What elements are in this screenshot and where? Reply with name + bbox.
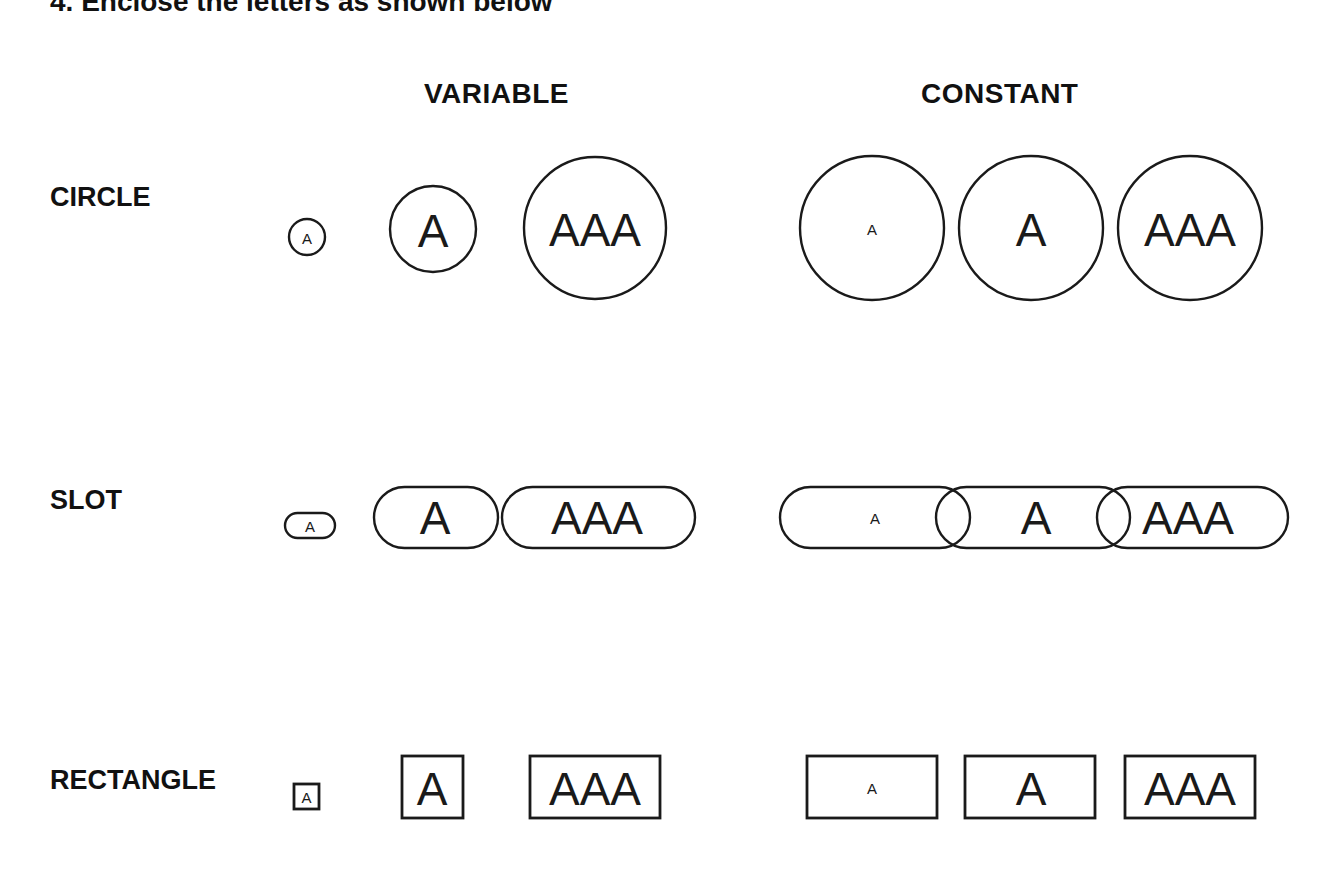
rectangle-variable-large-text: AAA [549, 763, 641, 815]
circle-variable-large: AAA [524, 157, 666, 299]
slot-variable-medium-text: A [420, 492, 451, 544]
rectangle-constant-large: AAA [1125, 756, 1255, 818]
slot-constant-small-text: A [870, 510, 880, 527]
rectangle-variable-small: A [294, 784, 319, 809]
rectangle-constant-large-text: AAA [1144, 763, 1236, 815]
rectangle-variable-small-text: A [301, 789, 311, 806]
rectangle-variable-large: AAA [530, 756, 660, 818]
rectangle-constant-small-text: A [867, 780, 877, 797]
slot-variable-medium: A [374, 487, 498, 548]
slot-variable-large: AAA [502, 487, 695, 548]
slot-constant-large: AAA [1097, 487, 1288, 548]
rectangle-variable-medium-text: A [417, 763, 448, 815]
slot-constant-small: A [780, 487, 970, 548]
circle-variable-medium-text: A [418, 205, 449, 257]
slot-variable-small-text: A [305, 518, 315, 535]
rectangle-constant-medium: A [965, 756, 1095, 818]
circle-variable-large-text: AAA [549, 204, 641, 256]
circle-variable-small: A [289, 219, 325, 255]
circle-constant-large-text: AAA [1144, 204, 1236, 256]
circle-constant-medium: A [959, 156, 1103, 300]
slot-constant-medium-text: A [1021, 492, 1052, 544]
rectangle-constant-medium-text: A [1016, 763, 1047, 815]
circle-variable-medium: A [390, 186, 476, 272]
rectangle-variable-medium: A [402, 756, 463, 818]
enclosure-diagram: A A AAA A A AAA A A AAA A A [0, 0, 1322, 872]
circle-constant-large: AAA [1118, 156, 1262, 300]
circle-constant-medium-text: A [1016, 204, 1047, 256]
circle-variable-small-text: A [302, 230, 312, 247]
slot-constant-large-text: AAA [1142, 492, 1234, 544]
slot-variable-small: A [285, 513, 335, 538]
slot-variable-large-text: AAA [551, 492, 643, 544]
circle-constant-small: A [800, 156, 944, 300]
slot-constant-medium: A [936, 487, 1130, 548]
rectangle-constant-small: A [807, 756, 937, 818]
circle-constant-small-text: A [867, 221, 877, 238]
